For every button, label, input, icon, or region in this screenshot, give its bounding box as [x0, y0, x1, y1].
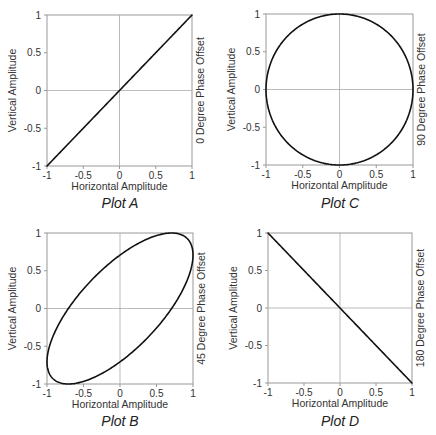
y-tick-label: -0.5: [245, 340, 263, 351]
y-tick-label: -1: [253, 378, 262, 389]
plot-d-chart: -1-0.500.51-1-0.500.51Horizontal Amplitu…: [0, 0, 436, 435]
x-axis-label: Horizontal Amplitude: [292, 397, 388, 409]
y-tick-label: 0.5: [248, 265, 262, 276]
plot-d-caption: Plot D: [280, 413, 400, 429]
y-tick-label: 1: [256, 228, 262, 239]
x-tick-label: -1: [264, 387, 273, 398]
y-tick-label: 0: [256, 303, 262, 314]
x-tick-label: 1: [409, 387, 415, 398]
phase-offset-label: 180 Degree Phase Offset: [414, 249, 426, 367]
y-axis-label: Vertical Amplitude: [227, 266, 239, 350]
